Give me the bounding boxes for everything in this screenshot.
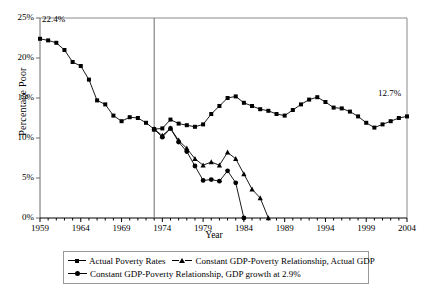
data-point-square: [364, 121, 368, 125]
x-tick-label: 1984: [224, 223, 264, 233]
x-tick-label: 1994: [305, 223, 345, 233]
x-tick-label: 1979: [183, 223, 223, 233]
data-point-square: [62, 48, 66, 52]
data-point-square: [291, 108, 295, 112]
data-point-square: [79, 64, 83, 68]
data-point-square: [103, 102, 107, 106]
data-point-square: [193, 125, 197, 129]
data-point-circle: [225, 168, 230, 173]
data-point-square: [128, 115, 132, 119]
y-tick-label: 25%: [0, 12, 34, 22]
chart-legend: Actual Poverty Rates Constant GDP-Povert…: [63, 251, 369, 284]
y-tick-label: 5%: [0, 172, 34, 182]
data-point-square: [283, 114, 287, 118]
data-point-square: [307, 98, 311, 102]
data-point-square: [201, 122, 205, 126]
data-point-square: [332, 106, 336, 110]
data-point-square: [405, 114, 409, 118]
data-point-square: [87, 78, 91, 82]
annotation-end-value: 12.7%: [378, 88, 401, 98]
y-tick-label: 15%: [0, 92, 34, 102]
y-tick-label: 0%: [0, 212, 34, 222]
data-point-square: [397, 116, 401, 120]
data-point-square: [177, 122, 181, 126]
data-point-square: [340, 106, 344, 110]
x-tick-label: 1974: [142, 223, 182, 233]
x-tick-label: 1959: [20, 223, 60, 233]
data-point-triangle: [233, 156, 238, 161]
triangle-marker-icon: [172, 258, 192, 263]
data-point-square: [242, 101, 246, 105]
data-point-circle: [184, 149, 189, 154]
legend-item-constant-actual-gdp: Constant GDP-Poverty Relationship, Actua…: [195, 256, 374, 266]
data-point-square: [71, 60, 75, 64]
y-tick-label: 10%: [0, 132, 34, 142]
data-point-square: [356, 114, 360, 118]
y-tick-label: 20%: [0, 52, 34, 62]
data-point-square: [111, 114, 115, 118]
data-point-square: [275, 112, 279, 116]
data-point-square: [348, 110, 352, 114]
data-point-square: [315, 95, 319, 99]
data-point-square: [136, 116, 140, 120]
data-point-circle: [176, 140, 181, 145]
data-point-triangle: [241, 171, 246, 176]
data-point-square: [185, 123, 189, 127]
circle-marker-icon: [68, 271, 87, 276]
data-point-square: [266, 109, 270, 113]
data-point-square: [323, 100, 327, 104]
data-point-circle: [233, 180, 238, 185]
legend-item-constant-gdp-growth: Constant GDP-Poverty Relationship, GDP g…: [90, 269, 301, 279]
series-line-1: [154, 128, 268, 218]
data-point-square: [38, 37, 42, 41]
data-point-square: [250, 104, 254, 108]
data-point-circle: [209, 177, 214, 182]
legend-item-actual-poverty-rates: Actual Poverty Rates: [89, 256, 165, 266]
data-point-square: [234, 94, 238, 98]
data-point-circle: [168, 126, 173, 131]
x-tick-label: 2004: [387, 223, 427, 233]
data-point-circle: [217, 179, 222, 184]
data-point-square: [226, 96, 230, 100]
data-point-square: [258, 107, 262, 111]
data-point-square: [46, 38, 50, 42]
series-line-0: [40, 39, 407, 129]
chart-figure: Percentage Poor Year 22.4% 12.7% Actual …: [0, 0, 428, 297]
data-point-square: [381, 122, 385, 126]
data-point-triangle: [249, 186, 254, 191]
data-point-square: [372, 126, 376, 130]
annotation-start-value: 22.4%: [42, 14, 65, 24]
data-point-circle: [241, 216, 246, 221]
data-point-square: [160, 126, 164, 130]
series-line-2: [154, 128, 244, 218]
data-point-square: [209, 112, 213, 116]
data-point-square: [299, 102, 303, 106]
data-point-square: [389, 119, 393, 123]
data-point-square: [144, 121, 148, 125]
square-marker-icon: [68, 259, 86, 263]
data-point-square: [120, 119, 124, 123]
data-point-circle: [201, 178, 206, 183]
legend-row-bottom: Constant GDP-Poverty Relationship, GDP g…: [68, 267, 364, 280]
data-point-triangle: [225, 150, 230, 155]
data-point-square: [217, 104, 221, 108]
data-point-square: [54, 41, 58, 45]
data-point-square: [168, 118, 172, 122]
x-tick-label: 1969: [102, 223, 142, 233]
legend-row-top: Actual Poverty Rates Constant GDP-Povert…: [68, 254, 364, 267]
x-tick-label: 1964: [61, 223, 101, 233]
data-point-circle: [152, 127, 157, 132]
data-point-triangle: [209, 159, 214, 164]
x-tick-label: 1989: [265, 223, 305, 233]
x-tick-label: 1999: [346, 223, 386, 233]
data-point-circle: [160, 135, 165, 140]
data-point-square: [95, 98, 99, 102]
data-point-circle: [193, 164, 198, 169]
